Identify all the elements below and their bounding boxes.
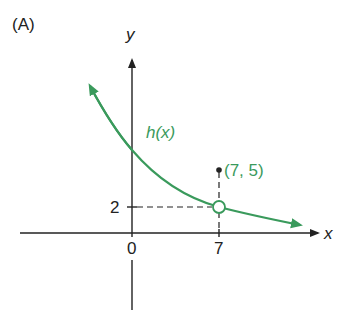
x-tick-label-0: 0 (127, 239, 136, 258)
point-label: (7, 5) (224, 161, 264, 180)
x-tick-label-7: 7 (214, 239, 223, 258)
function-curve-h (90, 86, 300, 225)
filled-point-7-5 (216, 167, 222, 173)
graph-canvas: (A) y x h(x) (7, 5) 0 7 2 (0, 0, 358, 315)
panel-label: (A) (12, 15, 35, 34)
curve-start-arrow (90, 86, 132, 150)
function-label: h(x) (146, 123, 175, 142)
open-circle-hole (213, 201, 225, 213)
y-axis-label: y (125, 25, 136, 44)
figure-root: (A) y x h(x) (7, 5) 0 7 2 (0, 0, 358, 315)
y-tick-label-2: 2 (110, 198, 119, 217)
x-axis-label: x (323, 224, 333, 243)
